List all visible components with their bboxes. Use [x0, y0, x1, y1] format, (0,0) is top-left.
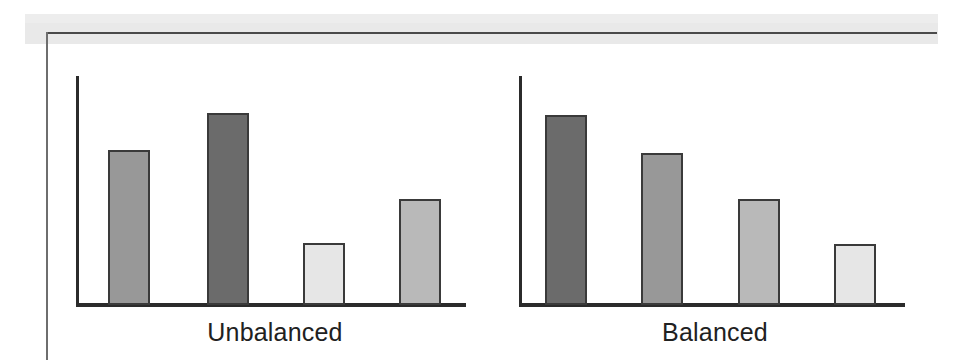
chart-panel-balanced: Balanced: [0, 0, 975, 360]
panel-label-balanced: Balanced: [595, 318, 835, 347]
bar-balanced-4: [834, 244, 876, 305]
bar-balanced-2: [641, 153, 683, 305]
bar-balanced-1: [545, 115, 587, 305]
bar-balanced-3: [738, 199, 780, 305]
figure-canvas: Unbalanced Balanced: [0, 0, 975, 360]
y-axis-balanced: [519, 76, 522, 306]
